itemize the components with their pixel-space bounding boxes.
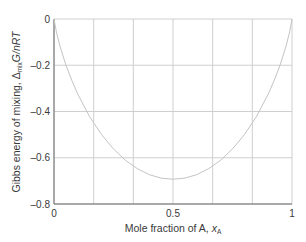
grid-lines (54, 19, 292, 204)
x-tick-label: 1 (289, 208, 295, 219)
x-tick-label: 0 (51, 208, 57, 219)
x-tick-labels: 00.51 (51, 208, 295, 219)
gibbs-mixing-chart: 0–0.2–0.4–0.6–0.8 00.51 Gibbs energy of … (0, 0, 306, 242)
y-axis-title: Gibbs energy of mixing, ΔmixG/nRT (10, 30, 23, 193)
y-tick-label: –0.8 (31, 199, 51, 210)
y-tick-label: –0.2 (31, 60, 51, 71)
y-tick-label: –0.4 (31, 106, 51, 117)
x-tick-label: 0.5 (166, 208, 180, 219)
y-tick-label: 0 (44, 14, 50, 25)
x-axis-title: Mole fraction of A, xA (125, 222, 222, 235)
y-tick-label: –0.6 (31, 152, 51, 163)
y-tick-labels: 0–0.2–0.4–0.6–0.8 (31, 14, 51, 210)
